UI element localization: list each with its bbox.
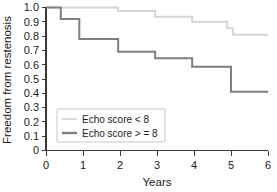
kaplan-meier-chart: Freedom from restenosis Years 00.10.20.3… [0,0,277,192]
y-tick-label: 0.5 [24,73,39,85]
chart-background [0,0,277,192]
legend-label: Echo score > = 8 [82,128,158,139]
x-tick-label: 1 [80,159,86,171]
x-tick-label: 3 [154,159,160,171]
legend-label: Echo score < 8 [82,114,149,125]
y-tick-label: 0.3 [24,101,39,113]
y-tick-label: 0.7 [24,44,39,56]
y-tick-label: 0.4 [24,87,39,99]
x-axis-title: Years [143,176,172,188]
x-tick-label: 5 [228,159,234,171]
y-tick-label: 0 [33,144,39,156]
chart-canvas: Freedom from restenosis Years 00.10.20.3… [0,0,277,192]
y-tick-label: 0.8 [24,30,39,42]
x-tick-label: 0 [43,159,49,171]
y-tick-label: 0.1 [24,130,39,142]
y-tick-label: 0.9 [24,16,39,28]
x-tick-label: 2 [117,159,123,171]
y-tick-label: 0.2 [24,116,39,128]
y-axis-title: Freedom from restenosis [1,16,13,144]
x-tick-label: 6 [265,159,271,171]
y-tick-label: 0.6 [24,59,39,71]
chart-legend: Echo score < 8Echo score > = 8 [57,109,165,142]
y-tick-label: 1.0 [24,1,39,13]
x-tick-label: 4 [191,159,197,171]
